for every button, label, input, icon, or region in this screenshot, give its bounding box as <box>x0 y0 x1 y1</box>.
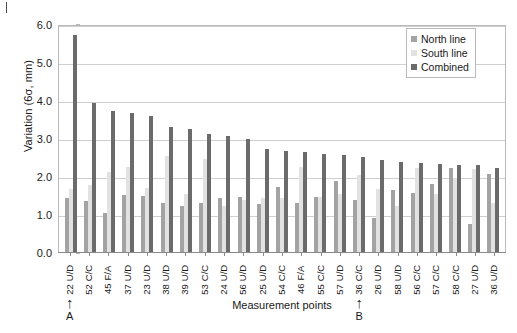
x-tick-label: 57 C/C <box>432 265 442 295</box>
x-tick-mark <box>398 253 399 256</box>
x-tick-label: 27 U/D <box>470 265 480 295</box>
bar-combined <box>399 162 403 252</box>
x-tick-label: 55 C/C <box>316 265 326 295</box>
x-tick-label: 38 U/D <box>161 265 171 295</box>
x-tick-mark <box>128 253 129 256</box>
bar-combined <box>322 154 326 252</box>
legend-item: South line <box>411 46 469 60</box>
bar-combined <box>284 151 288 252</box>
x-tick-mark <box>301 253 302 256</box>
x-tick-mark <box>70 253 71 256</box>
bar-combined <box>380 160 384 252</box>
x-tick-cell: 46 F/A <box>292 253 311 301</box>
bar-combined <box>419 163 423 252</box>
legend-label: South line <box>421 48 468 59</box>
chart-figure: Variation (6σ, mm) 6.05.04.03.02.01.00.0… <box>0 0 517 333</box>
bar-group <box>272 26 291 252</box>
bar-combined <box>149 116 153 252</box>
x-tick-cell: 25 U/D <box>253 253 272 301</box>
x-tick-mark <box>205 253 206 256</box>
x-axis-title: Measurement points <box>58 299 506 311</box>
bar-group <box>253 26 272 252</box>
x-tick-label: 56 C/C <box>412 265 422 295</box>
bar-group <box>484 26 503 252</box>
y-tick-label: 6.0 <box>22 20 52 31</box>
scan-corner-mark <box>6 2 7 13</box>
x-tick-cell: 53 C/C <box>195 253 214 301</box>
x-tick-label: 22 U/D <box>65 265 75 295</box>
x-tick-cell: 24 U/D <box>214 253 233 301</box>
legend-label: Combined <box>421 62 469 73</box>
x-tick-mark <box>436 253 437 256</box>
bar-group <box>138 26 157 252</box>
x-tick-label: 46 F/A <box>296 265 306 294</box>
bar-group <box>99 26 118 252</box>
bar-combined <box>246 139 250 252</box>
x-tick-label: 56 U/D <box>239 265 249 295</box>
x-tick-label: 24 U/D <box>219 265 229 295</box>
bar-combined <box>265 149 269 252</box>
annotation-b: ↑B <box>346 296 372 322</box>
x-tick-mark <box>243 253 244 256</box>
x-tick-cell: 45 F/A <box>99 253 118 301</box>
bar-group <box>234 26 253 252</box>
x-tick-cell: 37 U/D <box>118 253 137 301</box>
y-tick-label: 4.0 <box>22 96 52 107</box>
bar-combined <box>226 136 230 252</box>
x-tick-mark <box>147 253 148 256</box>
annotation-label: B <box>346 311 372 322</box>
x-tick-label: 54 C/C <box>277 265 287 295</box>
bar-group <box>215 26 234 252</box>
x-tick-mark <box>224 253 225 256</box>
bar-group <box>311 26 330 252</box>
x-tick-mark <box>494 253 495 256</box>
annotation-a: ↑A <box>57 296 83 322</box>
bar-combined <box>188 129 192 253</box>
bar-group <box>176 26 195 252</box>
x-tick-label: 36 C/C <box>354 265 364 295</box>
legend-label: North line <box>421 34 466 45</box>
y-axis-tick-labels: 6.05.04.03.02.01.00.0 <box>22 25 52 253</box>
bar-group <box>157 26 176 252</box>
bar-combined <box>207 134 211 252</box>
x-tick-cell: 56 C/C <box>407 253 426 301</box>
legend-item: Combined <box>411 60 469 74</box>
x-tick-label: 52 C/C <box>84 265 94 295</box>
legend-swatch <box>411 36 417 42</box>
annotation-label: A <box>57 311 83 322</box>
x-tick-mark <box>378 253 379 256</box>
y-tick-label: 3.0 <box>22 134 52 145</box>
x-tick-label: 58 U/D <box>393 265 403 295</box>
bar-combined <box>73 35 77 252</box>
x-tick-cell: 23 U/D <box>137 253 156 301</box>
bar-combined <box>476 165 480 252</box>
x-tick-label: 57 U/D <box>335 265 345 295</box>
bar-group <box>80 26 99 252</box>
x-tick-cell: 58 U/D <box>388 253 407 301</box>
x-tick-label: 39 U/D <box>181 265 191 295</box>
x-tick-cell: 57 C/C <box>427 253 446 301</box>
bar-group <box>369 26 388 252</box>
bar-group <box>349 26 368 252</box>
bar-combined <box>303 152 307 252</box>
bar-combined <box>92 103 96 252</box>
legend-swatch <box>411 64 417 70</box>
x-tick-cell: 38 U/D <box>156 253 175 301</box>
bar-combined <box>361 157 365 252</box>
x-axis-tick-labels: 22 U/D52 C/C45 F/A37 U/D23 U/D38 U/D39 U… <box>58 253 506 301</box>
y-tick-label: 0.0 <box>22 248 52 259</box>
y-tick-label: 1.0 <box>22 210 52 221</box>
y-tick-label: 2.0 <box>22 172 52 183</box>
bar-group <box>119 26 138 252</box>
x-tick-cell: 52 C/C <box>79 253 98 301</box>
x-tick-label: 37 U/D <box>123 265 133 295</box>
x-tick-mark <box>89 253 90 256</box>
x-tick-mark <box>417 253 418 256</box>
bar-combined <box>342 155 346 252</box>
x-tick-cell: 36 U/D <box>485 253 504 301</box>
x-tick-label: 45 F/A <box>103 265 113 294</box>
y-tick-label: 5.0 <box>22 58 52 69</box>
x-tick-mark <box>359 253 360 256</box>
x-tick-label: 53 C/C <box>200 265 210 295</box>
bar-group <box>196 26 215 252</box>
